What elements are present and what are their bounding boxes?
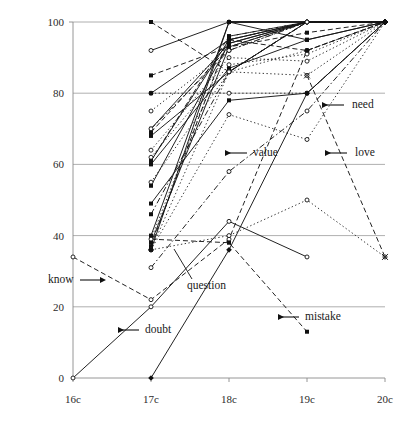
line-chart: 020406080100 16c17c18c19c20c needloveval… — [0, 0, 408, 423]
annotation-label: know — [48, 273, 74, 285]
data-point-marker — [149, 155, 153, 159]
data-point-marker — [227, 70, 231, 74]
annotation-label: need — [352, 98, 374, 110]
annotation-label: question — [187, 279, 226, 292]
x-tick-label: 19c — [299, 393, 315, 405]
data-point-marker — [71, 376, 75, 380]
data-point-marker — [149, 20, 153, 24]
data-point-marker — [149, 148, 153, 152]
data-point-marker — [149, 266, 153, 270]
data-point-marker — [227, 170, 231, 174]
data-point-marker — [227, 63, 231, 67]
data-point-marker — [305, 137, 309, 141]
data-point-marker — [149, 180, 153, 184]
data-point-marker — [149, 305, 153, 309]
data-point-marker — [227, 34, 231, 38]
y-tick-label: 40 — [53, 230, 65, 242]
data-point-marker — [149, 237, 153, 241]
data-point-marker — [227, 241, 231, 245]
data-point-marker — [227, 38, 231, 42]
data-point-marker — [149, 91, 153, 95]
data-point-marker — [227, 219, 231, 223]
y-tick-label: 80 — [53, 87, 65, 99]
data-point-marker — [305, 330, 309, 334]
data-point-marker — [149, 73, 153, 77]
data-point-marker — [227, 48, 231, 52]
data-point-marker — [149, 241, 153, 245]
data-point-marker — [305, 20, 309, 24]
data-point-marker — [227, 20, 231, 24]
data-point-marker — [149, 212, 153, 216]
data-point-marker — [149, 127, 153, 131]
data-point-marker — [305, 38, 309, 42]
data-point-marker — [71, 255, 75, 259]
data-point-marker — [383, 20, 387, 24]
data-point-marker — [149, 134, 153, 138]
data-point-marker — [227, 56, 231, 60]
data-point-marker — [227, 113, 231, 117]
annotation-label: value — [253, 146, 278, 158]
data-point-marker — [305, 255, 309, 259]
data-point-marker — [305, 198, 309, 202]
x-tick-label: 16c — [65, 393, 81, 405]
data-point-marker — [149, 109, 153, 113]
data-point-marker — [305, 48, 309, 52]
data-point-marker — [149, 248, 153, 252]
annotation-label: doubt — [145, 323, 172, 335]
data-point-marker — [305, 52, 309, 56]
y-tick-label: 0 — [59, 372, 65, 384]
x-tick-label: 17c — [143, 393, 159, 405]
data-point-marker — [149, 184, 153, 188]
data-point-marker — [305, 109, 309, 113]
annotation-label: love — [355, 146, 375, 158]
data-point-marker — [149, 298, 153, 302]
data-point-marker — [149, 48, 153, 52]
data-point-marker — [305, 91, 309, 95]
chart-background — [0, 0, 408, 423]
y-tick-label: 20 — [53, 301, 65, 313]
x-tick-label: 18c — [221, 393, 237, 405]
y-tick-label: 100 — [48, 16, 65, 28]
data-point-marker — [227, 91, 231, 95]
data-point-marker — [227, 234, 231, 238]
x-tick-label: 20c — [377, 393, 393, 405]
y-tick-label: 60 — [53, 158, 65, 170]
data-point-marker — [227, 98, 231, 102]
data-point-marker — [149, 202, 153, 206]
data-point-marker — [305, 31, 309, 35]
data-point-marker — [149, 162, 153, 166]
data-point-marker — [305, 59, 309, 63]
chart-canvas: 020406080100 16c17c18c19c20c needloveval… — [0, 0, 408, 423]
annotation-label: mistake — [305, 310, 341, 322]
